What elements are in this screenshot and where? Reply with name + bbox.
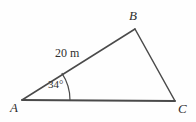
triangle-drawing [0,0,196,122]
vertex-label-a: A [10,101,18,114]
side-bc-line [135,29,175,101]
triangle-figure: A B C 20 m 34° [0,0,196,122]
vertex-label-c: C [178,102,187,115]
side-ab-length-label: 20 m [55,47,79,59]
side-ac-line [22,100,175,101]
angle-a-measure-label: 34° [48,79,63,90]
vertex-label-b: B [129,9,137,22]
side-ab-line [22,29,135,100]
